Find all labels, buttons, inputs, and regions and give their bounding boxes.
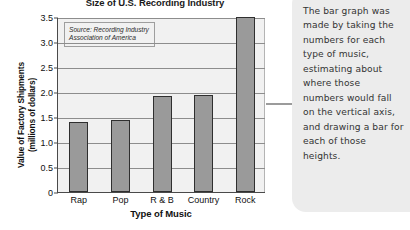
x-tick-label: R & B	[150, 195, 174, 205]
gridline	[58, 68, 265, 69]
y-axis-label: Value of Factory Shipments (millions of …	[16, 30, 38, 200]
y-tick-label: 2.5	[40, 63, 53, 73]
y-tick-mark	[54, 93, 58, 94]
source-annotation-line1: Source: Recording Industry	[69, 26, 149, 34]
bar	[111, 120, 130, 193]
source-annotation-line2: Association of America	[69, 34, 149, 42]
y-tick-mark	[54, 118, 58, 119]
x-tick-label: Country	[188, 195, 220, 205]
plot-area: Source: Recording Industry Association o…	[57, 18, 265, 193]
y-tick-mark	[54, 68, 58, 69]
gridline	[58, 93, 265, 94]
chart-title: Size of U.S. Recording Industry	[30, 0, 280, 8]
y-tick-mark	[54, 18, 58, 19]
bar	[194, 95, 213, 193]
callout-panel: The bar graph was made by taking the num…	[292, 0, 410, 212]
y-tick-label: 2.0	[40, 88, 53, 98]
y-tick-mark	[54, 193, 58, 194]
bar	[153, 96, 172, 193]
gridline	[58, 18, 265, 19]
y-tick-mark	[54, 143, 58, 144]
bar	[236, 17, 255, 192]
y-tick-label: 0	[48, 188, 53, 198]
x-axis-label: Type of Music	[57, 208, 265, 219]
callout-text: The bar graph was made by taking the num…	[303, 4, 404, 163]
y-tick-label: 1.0	[40, 138, 53, 148]
y-tick-mark	[54, 43, 58, 44]
y-tick-label: 1.5	[40, 113, 53, 123]
x-tick-label: Rock	[235, 195, 256, 205]
y-tick-label: 3.5	[40, 13, 53, 23]
bar	[69, 122, 88, 192]
y-tick-label: 3.0	[40, 38, 53, 48]
y-tick-mark	[54, 168, 58, 169]
plot-right-edge	[264, 18, 265, 192]
x-tick-label: Pop	[112, 195, 128, 205]
gridline	[58, 43, 265, 44]
x-tick-label: Rap	[71, 195, 88, 205]
y-tick-label: 0.5	[40, 163, 53, 173]
y-axis-label-line1: Value of Factory Shipments	[16, 62, 26, 168]
bar-chart-figure: Size of U.S. Recording Industry Value of…	[0, 0, 280, 230]
y-axis-label-line2: (millions of dollars)	[27, 30, 38, 200]
